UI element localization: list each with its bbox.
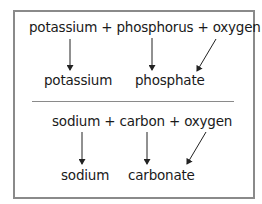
arrow-oxygen-top	[197, 39, 216, 71]
arrow-oxygen-bottom	[187, 132, 206, 164]
arrows	[0, 0, 262, 204]
